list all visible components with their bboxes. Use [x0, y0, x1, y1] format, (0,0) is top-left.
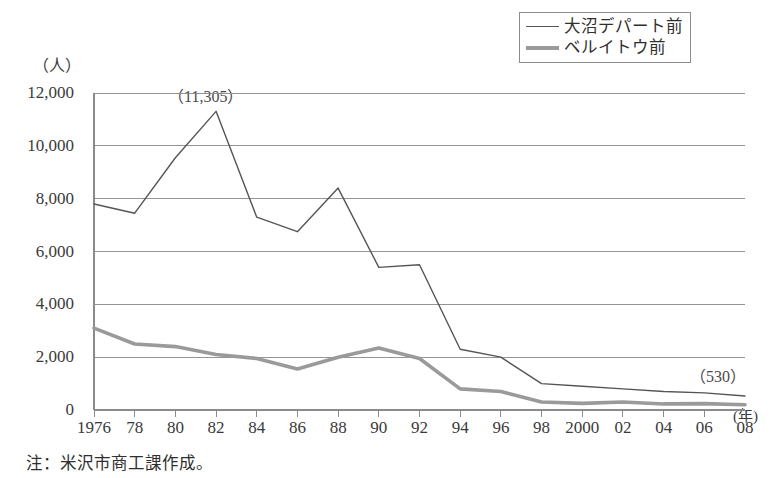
legend-item-onuma: 大沼デパート前 — [526, 16, 683, 37]
series-line-onuma — [94, 111, 745, 396]
series-line-beruitou — [94, 328, 745, 405]
legend-line-swatch-thick — [526, 46, 559, 50]
legend-label-beruitou: ベルイトウ前 — [564, 38, 666, 57]
chart-legend: 大沼デパート前 ベルイトウ前 — [519, 12, 691, 63]
gridlines — [94, 93, 745, 410]
plot-area — [0, 0, 770, 478]
legend-item-beruitou: ベルイトウ前 — [526, 37, 683, 58]
x-axis-tick-marks — [94, 410, 745, 417]
data-series-layer — [94, 111, 745, 404]
legend-line-swatch-thin — [526, 26, 559, 27]
legend-label-onuma: 大沼デパート前 — [564, 17, 683, 36]
chart-figure: 大沼デパート前 ベルイトウ前 （人） (年) （11,305） （530） 12… — [0, 0, 770, 478]
